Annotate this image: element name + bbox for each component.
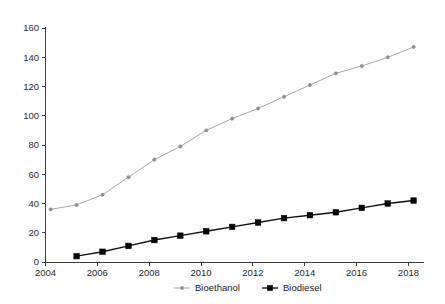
data-point-bioethanol bbox=[282, 95, 285, 98]
y-axis-tick-label: 140 bbox=[23, 52, 39, 63]
legend-label-bioethanol: Bioethanol bbox=[195, 282, 240, 293]
x-axis-tick-label: 2012 bbox=[242, 267, 263, 278]
y-axis-tick-label: 100 bbox=[23, 110, 39, 121]
y-axis-tick-label: 60 bbox=[28, 169, 39, 180]
legend-swatch-marker-bioethanol bbox=[180, 286, 183, 289]
data-point-biodiesel bbox=[385, 201, 391, 207]
data-point-biodiesel bbox=[359, 205, 365, 211]
data-point-biodiesel bbox=[255, 220, 261, 226]
data-point-biodiesel bbox=[100, 249, 106, 255]
legend-label-biodiesel: Biodiesel bbox=[283, 282, 322, 293]
x-axis-tick-label: 2008 bbox=[139, 267, 160, 278]
data-point-biodiesel bbox=[229, 224, 235, 230]
data-point-biodiesel bbox=[333, 209, 339, 215]
x-axis-tick-label: 2018 bbox=[398, 267, 419, 278]
series-layer bbox=[49, 45, 416, 259]
x-axis-tick-label: 2006 bbox=[87, 267, 108, 278]
y-axis-tick-label: 40 bbox=[28, 198, 39, 209]
x-axis-tick-label: 2014 bbox=[294, 267, 315, 278]
y-axis-tick-label: 0 bbox=[34, 256, 39, 267]
y-axis-tick-label: 20 bbox=[28, 227, 39, 238]
y-axis-tick-label: 120 bbox=[23, 81, 39, 92]
data-point-bioethanol bbox=[230, 117, 233, 120]
data-point-bioethanol bbox=[49, 208, 52, 211]
data-point-bioethanol bbox=[153, 158, 156, 161]
data-point-bioethanol bbox=[386, 56, 389, 59]
data-point-bioethanol bbox=[127, 175, 130, 178]
data-point-biodiesel bbox=[411, 198, 417, 204]
data-point-bioethanol bbox=[256, 107, 259, 110]
y-axis-tick-label: 160 bbox=[23, 22, 39, 33]
y-axis-tick-label: 80 bbox=[28, 139, 39, 150]
x-axis-tick-label: 2010 bbox=[190, 267, 211, 278]
x-axis-tick-label: 2004 bbox=[35, 267, 56, 278]
y-axis: 020406080100120140160 bbox=[23, 22, 45, 267]
data-point-biodiesel bbox=[178, 233, 184, 239]
data-point-bioethanol bbox=[308, 83, 311, 86]
chart-legend: BioethanolBiodiesel bbox=[174, 282, 322, 293]
data-point-biodiesel bbox=[126, 243, 132, 249]
data-point-biodiesel bbox=[74, 253, 80, 259]
data-point-biodiesel bbox=[307, 212, 313, 218]
chart-canvas: 020406080100120140160 200420062008201020… bbox=[0, 0, 445, 304]
data-point-bioethanol bbox=[101, 193, 104, 196]
x-axis-tick-label: 2016 bbox=[346, 267, 367, 278]
data-point-biodiesel bbox=[281, 215, 287, 221]
data-point-biodiesel bbox=[152, 237, 158, 243]
legend-swatch-marker-biodiesel bbox=[267, 285, 272, 290]
data-point-bioethanol bbox=[75, 203, 78, 206]
data-point-bioethanol bbox=[412, 45, 415, 48]
line-chart: 020406080100120140160 200420062008201020… bbox=[0, 0, 445, 304]
data-point-bioethanol bbox=[360, 64, 363, 67]
data-point-bioethanol bbox=[205, 129, 208, 132]
data-point-bioethanol bbox=[179, 145, 182, 148]
data-point-bioethanol bbox=[334, 72, 337, 75]
data-point-biodiesel bbox=[203, 228, 209, 234]
x-axis: 20042006200820102012201420162018 bbox=[35, 262, 424, 278]
series-line-bioethanol bbox=[51, 47, 414, 209]
